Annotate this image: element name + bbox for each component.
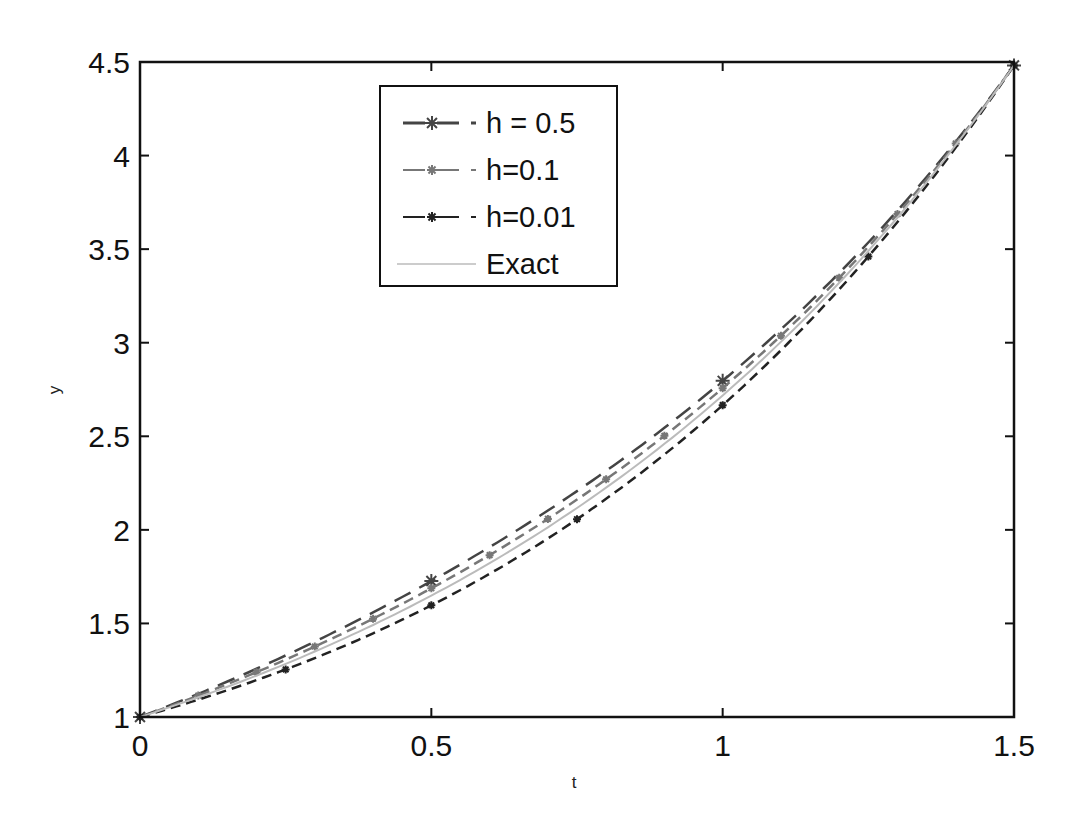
star-marker-icon [719, 384, 727, 392]
y-tick-label: 4.5 [88, 46, 130, 79]
x-tick-label: 0.5 [410, 729, 452, 762]
star-marker-icon [719, 401, 727, 409]
chart-canvas: 00.511.5 11.522.533.544.5 t y h = 0.5h=0… [0, 0, 1079, 829]
legend-label: Exact [486, 248, 559, 280]
y-tick-label: 3 [113, 327, 130, 360]
legend-label: h = 0.5 [486, 107, 576, 139]
star-marker-icon [282, 665, 290, 673]
star-marker-icon [660, 432, 668, 440]
legend-label: h=0.01 [486, 201, 576, 233]
star-marker-icon [427, 584, 435, 592]
y-axis-label: y [45, 385, 64, 394]
y-tick-label: 4 [113, 140, 130, 173]
x-tick-label: 0 [132, 729, 149, 762]
y-tick-label: 3.5 [88, 233, 130, 266]
star-marker-icon [573, 515, 581, 523]
y-tick-label: 2 [113, 514, 130, 547]
star-marker-icon [544, 515, 552, 523]
y-tick-label: 1 [113, 701, 130, 734]
star-marker-icon [427, 165, 437, 175]
star-marker-icon [427, 212, 437, 222]
y-tick-label: 2.5 [88, 420, 130, 453]
y-tick-label: 1.5 [88, 607, 130, 640]
x-tick-label: 1.5 [993, 729, 1035, 762]
x-tick-label: 1 [714, 729, 731, 762]
star-marker-icon [602, 475, 610, 483]
star-marker-icon [486, 551, 494, 559]
star-marker-icon [425, 116, 439, 130]
legend-label: h=0.1 [486, 154, 559, 186]
star-marker-icon [369, 615, 377, 623]
legend: h = 0.5h=0.1h=0.01Exact [380, 86, 617, 286]
x-axis-label: t [572, 773, 577, 792]
star-marker-icon [427, 601, 435, 609]
